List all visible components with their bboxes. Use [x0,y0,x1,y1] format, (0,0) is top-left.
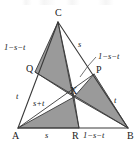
vertex-label-P: P [96,65,102,75]
shaded-regions-group [18,22,128,128]
edge-label-PB: t [114,96,116,105]
edge-label-AR: s [45,131,48,140]
vertex-label-R: R [72,131,79,141]
shaded-triangle-AXR [18,97,79,128]
vertex-label-Q: Q [26,64,33,74]
edge-label-CQ: 1−s−t [4,43,25,52]
shaded-triangle-CQX [35,22,74,97]
vertex-label-C: C [55,8,62,18]
vertex-label-X: X [70,86,77,96]
edge-label-XP: 1−s−t [98,52,119,61]
edge-label-QA: t [16,92,18,101]
vertex-label-B: B [127,131,134,141]
triangle-diagram-canvas [0,0,140,145]
geometry-figure: CQPXARB1−s−tts1−s−tts1−s−ts+t [0,0,140,145]
edge-label-CP: s [78,40,81,49]
vertex-label-A: A [12,131,19,141]
edge-label-AX: s+t [33,99,44,108]
edge-label-RB: 1−s−t [83,131,104,140]
